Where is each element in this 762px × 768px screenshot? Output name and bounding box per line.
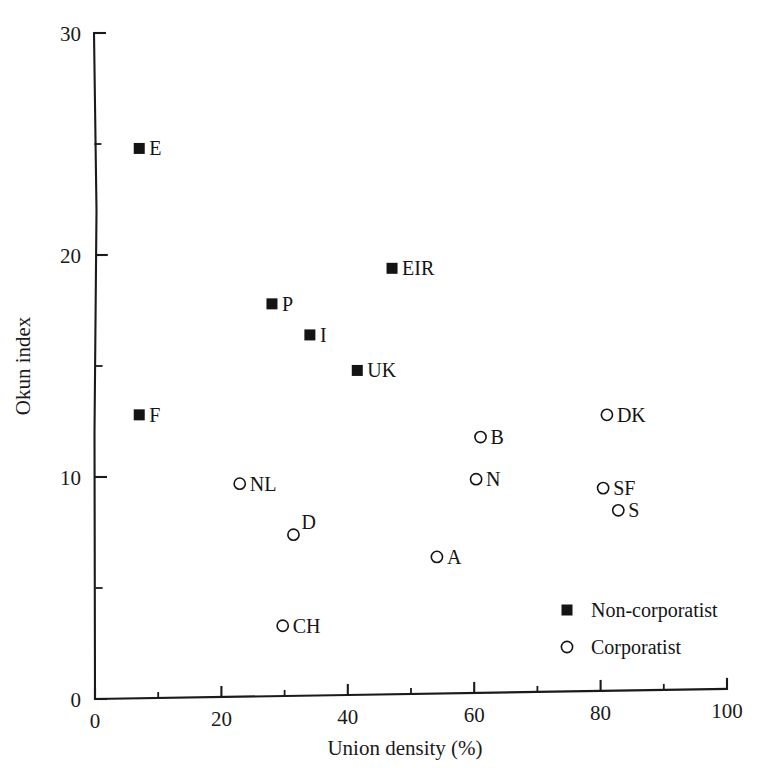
- marker-filled-square: [134, 143, 145, 154]
- marker-open-circle: [288, 529, 299, 540]
- legend-item-label: Corporatist: [591, 636, 681, 659]
- legend-item-label: Non-corporatist: [591, 599, 718, 622]
- marker-open-circle: [475, 431, 486, 442]
- data-point-label: F: [149, 404, 160, 426]
- x-axis-title: Union density (%): [327, 736, 482, 760]
- marker-open-circle: [598, 483, 609, 494]
- legend: Non-corporatistCorporatist: [561, 599, 718, 659]
- data-point: P: [266, 293, 293, 315]
- data-point: N: [470, 468, 500, 490]
- x-tick-label: 60: [464, 703, 485, 727]
- data-point-label: EIR: [402, 257, 435, 279]
- data-point-label: I: [320, 324, 327, 346]
- data-point: DK: [601, 404, 646, 426]
- series-non-corporatist: EEIRPIUKF: [134, 137, 435, 425]
- data-point: S: [613, 499, 640, 521]
- marker-filled-square: [134, 409, 145, 420]
- y-tick-label: 30: [60, 22, 81, 46]
- plot-canvas: 0204060801000102030 EEIRPIUKFDKBNLNSFSDA…: [0, 0, 762, 768]
- series-corporatist: DKBNLNSFSDACH: [234, 404, 646, 637]
- data-point-label: E: [149, 137, 161, 159]
- marker-open-circle: [470, 474, 481, 485]
- marker-filled-square: [266, 298, 277, 309]
- marker-filled-square: [387, 263, 398, 274]
- marker-open-circle: [601, 409, 612, 420]
- data-point: UK: [352, 359, 397, 381]
- data-point-label: SF: [613, 477, 635, 499]
- y-axis-title: Okun index: [11, 316, 35, 415]
- data-point-label: A: [447, 546, 462, 568]
- x-tick-label: 100: [711, 699, 743, 723]
- x-tick-label: 0: [90, 709, 101, 733]
- data-point: CH: [277, 615, 320, 637]
- data-point-label: B: [491, 426, 504, 448]
- data-point-label: N: [486, 468, 500, 490]
- x-tick-label: 80: [590, 701, 611, 725]
- legend-marker-open-circle: [561, 641, 572, 652]
- data-point-label: UK: [367, 359, 396, 381]
- marker-filled-square: [304, 329, 315, 340]
- scatter-plot-figure: 0204060801000102030 EEIRPIUKFDKBNLNSFSDA…: [0, 0, 762, 768]
- data-point: F: [134, 404, 161, 426]
- marker-open-circle: [613, 505, 624, 516]
- data-point: E: [134, 137, 162, 159]
- data-point: EIR: [387, 257, 435, 279]
- x-tick-label: 40: [337, 705, 358, 729]
- x-tick-label: 20: [211, 707, 232, 731]
- y-tick-label: 20: [60, 244, 81, 268]
- data-point-label: P: [282, 293, 293, 315]
- data-point-label: DK: [617, 404, 646, 426]
- data-point: B: [475, 426, 504, 448]
- data-point: D: [288, 511, 316, 541]
- data-point-label: S: [628, 499, 639, 521]
- data-point: A: [431, 546, 462, 568]
- data-point: SF: [598, 477, 636, 499]
- legend-item: Non-corporatist: [562, 599, 719, 622]
- data-point-label: D: [301, 511, 315, 533]
- marker-open-circle: [234, 478, 245, 489]
- data-point: I: [304, 324, 326, 346]
- legend-marker-filled-square: [562, 605, 573, 616]
- marker-open-circle: [431, 551, 442, 562]
- data-point-label: NL: [250, 473, 277, 495]
- data-points-layer: EEIRPIUKFDKBNLNSFSDACH: [134, 137, 647, 636]
- marker-open-circle: [277, 620, 288, 631]
- y-tick-label: 10: [60, 466, 81, 490]
- data-point: NL: [234, 473, 276, 495]
- marker-filled-square: [352, 365, 363, 376]
- tick-labels-layer: 0204060801000102030: [60, 22, 743, 733]
- data-point-label: CH: [293, 615, 321, 637]
- legend-item: Corporatist: [561, 636, 681, 659]
- y-tick-label: 0: [71, 688, 82, 712]
